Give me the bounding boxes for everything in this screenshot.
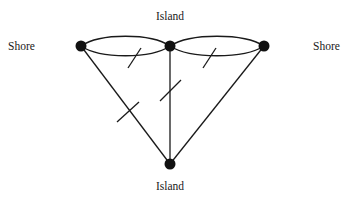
edge-island-top-shore-right-lower xyxy=(170,46,264,56)
label-island-top: Island xyxy=(156,10,184,22)
label-shore-left: Shore xyxy=(8,40,35,52)
edge-shore-left-island-bottom xyxy=(81,46,170,164)
edge-island-top-shore-right-upper xyxy=(170,36,264,46)
node-shore-left xyxy=(76,41,87,52)
node-shore-right xyxy=(259,41,270,52)
tick-mark-right-lower-arc xyxy=(203,48,216,68)
node-island-bottom xyxy=(165,159,176,170)
label-island-bottom: Island xyxy=(156,180,184,192)
tick-mark-left-lower-arc xyxy=(128,48,141,68)
label-shore-right: Shore xyxy=(313,40,340,52)
edge-shore-left-island-top-lower xyxy=(81,46,170,56)
bridge-graph-diagram: Shore Island Shore Island xyxy=(0,0,361,198)
edge-shore-left-island-top-upper xyxy=(81,36,170,46)
edge-shore-right-island-bottom xyxy=(170,46,264,164)
node-island-top xyxy=(165,41,176,52)
